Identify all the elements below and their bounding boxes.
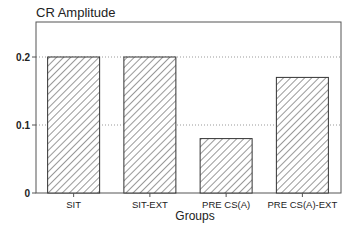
bar-chart: CR Amplitude 00.10.2 SITSIT-EXTPRE CS(A)…	[0, 0, 355, 234]
x-tick-label: SIT	[66, 199, 81, 210]
y-axis-ticks: 00.10.2	[16, 52, 36, 199]
y-axis-title: CR Amplitude	[36, 5, 115, 20]
y-tick-label: 0.1	[16, 120, 30, 131]
bar-sit	[48, 57, 100, 193]
y-tick-label: 0	[24, 188, 30, 199]
bar-pre-cs-a-	[200, 139, 252, 193]
x-tick-label: PRE CS(A)-EXT	[268, 199, 338, 210]
bar-sit-ext	[124, 57, 176, 193]
chart-canvas: CR Amplitude 00.10.2 SITSIT-EXTPRE CS(A)…	[0, 0, 355, 234]
x-axis-ticks: SITSIT-EXTPRE CS(A)PRE CS(A)-EXT	[66, 193, 337, 210]
y-tick-label: 0.2	[16, 52, 30, 63]
x-axis-title: Groups	[175, 209, 214, 223]
x-tick-label: SIT-EXT	[132, 199, 168, 210]
bar-pre-cs-a-ext	[276, 77, 328, 193]
bars	[48, 57, 329, 193]
